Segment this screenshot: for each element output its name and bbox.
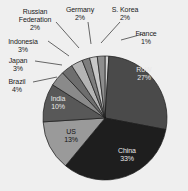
slice-value-text-row: 27% — [136, 74, 151, 82]
slice-value-text-us: 13% — [64, 136, 78, 144]
slice-label-china: China33% — [118, 147, 136, 163]
slice-label-germany: Germany2% — [66, 6, 94, 22]
slice-label-japan: Japan3% — [9, 57, 28, 73]
slice-value-text-s-korea: 2% — [112, 14, 138, 22]
pie-chart: France1%RoW27%China33%US13%India10%Brazi… — [0, 0, 188, 191]
slice-label-text-india: India — [51, 95, 66, 102]
slice-label-text-russian-federation: Russian Federation — [9, 8, 61, 24]
leader-line-germany — [88, 22, 91, 44]
slice-label-text-us: US — [66, 128, 76, 135]
slice-label-text-japan: Japan — [9, 57, 28, 64]
leader-line-japan — [35, 61, 62, 65]
slice-value-text-brazil: 4% — [9, 86, 26, 94]
slice-label-india: India10% — [51, 95, 66, 111]
slice-label-france: France1% — [135, 30, 156, 46]
slice-label-text-france: France — [135, 30, 156, 37]
slice-label-text-row: RoW — [136, 66, 151, 73]
slice-label-row: RoW27% — [136, 66, 151, 82]
slice-label-s-korea: S. Korea2% — [112, 6, 138, 22]
leader-line-s-korea — [101, 22, 120, 43]
slice-label-brazil: Brazil4% — [9, 78, 26, 94]
slice-value-text-france: 1% — [135, 38, 156, 46]
slice-value-text-china: 33% — [118, 155, 136, 163]
slice-value-text-japan: 3% — [9, 65, 28, 73]
slice-value-text-russian-federation: 2% — [9, 24, 61, 32]
slice-label-us: US13% — [64, 128, 78, 144]
leader-line-brazil — [33, 77, 57, 82]
slice-label-russian-federation: Russian Federation2% — [9, 8, 61, 32]
slice-label-text-s-korea: S. Korea — [112, 6, 138, 13]
slice-label-text-china: China — [118, 147, 136, 154]
slice-label-text-brazil: Brazil — [9, 78, 26, 85]
slice-value-text-indonesia: 3% — [8, 46, 37, 54]
slice-label-text-germany: Germany — [66, 6, 94, 13]
slice-value-text-germany: 2% — [66, 14, 94, 22]
slice-label-indonesia: Indonesia3% — [8, 38, 37, 54]
leader-line-indonesia — [48, 41, 69, 56]
slice-label-text-indonesia: Indonesia — [8, 38, 37, 45]
slice-value-text-india: 10% — [51, 103, 66, 111]
